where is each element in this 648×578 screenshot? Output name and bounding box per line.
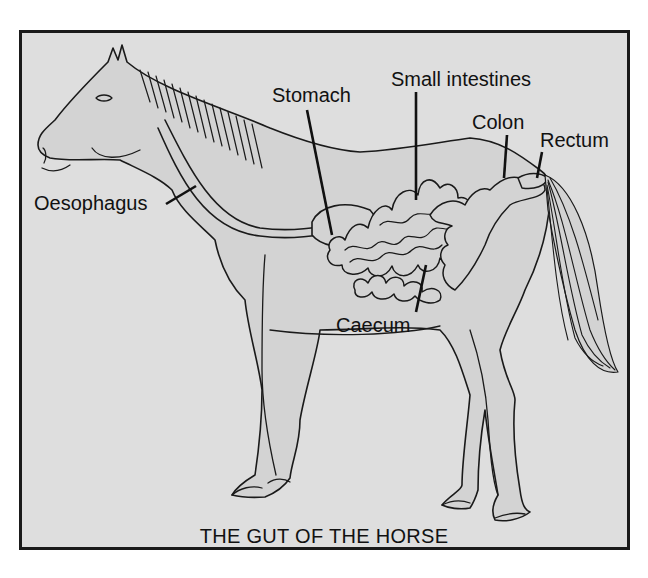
label-small-intestines: Small intestines bbox=[391, 69, 531, 89]
label-rectum: Rectum bbox=[540, 130, 609, 150]
mouth bbox=[42, 165, 70, 171]
label-colon: Colon bbox=[472, 112, 524, 132]
label-stomach: Stomach bbox=[272, 85, 351, 105]
label-oesophagus: Oesophagus bbox=[34, 193, 147, 213]
label-caecum: Caecum bbox=[336, 315, 410, 335]
diagram-title: THE GUT OF THE HORSE bbox=[0, 525, 648, 548]
